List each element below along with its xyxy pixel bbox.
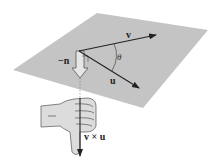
label-v: v <box>126 29 131 40</box>
cross-product-diagram: v u θ −n v × u <box>0 0 221 167</box>
label-u: u <box>110 75 116 86</box>
label-theta: θ <box>117 52 122 62</box>
label-neg-n: −n <box>58 55 70 66</box>
label-cross: v × u <box>84 131 106 142</box>
hand <box>41 98 96 155</box>
plane <box>13 13 208 108</box>
